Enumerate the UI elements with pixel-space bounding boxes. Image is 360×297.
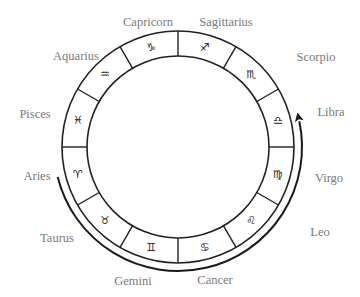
- label-scorpio: Scorpio: [297, 50, 336, 64]
- virgo-symbol-icon: ♍︎: [273, 168, 283, 181]
- label-libra: Libra: [317, 105, 345, 119]
- arrowhead-icon: [295, 112, 304, 122]
- label-virgo: Virgo: [315, 171, 343, 185]
- label-sagittarius: Sagittarius: [199, 15, 253, 29]
- sector-divider: [120, 47, 133, 69]
- sign-glyphs: ♑︎♐︎♏︎♎︎♍︎♌︎♋︎♊︎♉︎♈︎♓︎♒︎: [73, 41, 283, 254]
- label-cancer: Cancer: [197, 273, 233, 287]
- zodiac-wheel-diagram: ♑︎♐︎♏︎♎︎♍︎♌︎♋︎♊︎♉︎♈︎♓︎♒︎ CapricornSagitt…: [0, 0, 360, 297]
- label-capricorn: Capricorn: [123, 15, 174, 29]
- sector-divider: [257, 89, 279, 102]
- sector-divider: [78, 89, 100, 102]
- label-pisces: Pisces: [19, 107, 50, 121]
- label-aries: Aries: [23, 169, 50, 183]
- inner-ring: [87, 56, 269, 238]
- aries-symbol-icon: ♈︎: [73, 168, 83, 181]
- outer-ring: [62, 31, 294, 263]
- sector-divider: [224, 47, 237, 69]
- sector-divider: [120, 226, 133, 248]
- sector-divider: [78, 193, 100, 206]
- scorpio-symbol-icon: ♏︎: [246, 68, 256, 81]
- ring-dividers: [62, 31, 294, 263]
- sagittarius-symbol-icon: ♐︎: [200, 41, 210, 54]
- sector-divider: [257, 193, 279, 206]
- label-gemini: Gemini: [114, 274, 152, 288]
- gemini-symbol-icon: ♊︎: [146, 241, 156, 254]
- pisces-symbol-icon: ♓︎: [73, 114, 83, 127]
- label-taurus: Taurus: [40, 231, 74, 245]
- capricorn-symbol-icon: ♑︎: [146, 41, 156, 54]
- label-leo: Leo: [310, 225, 329, 239]
- cancer-symbol-icon: ♋︎: [200, 241, 210, 254]
- libra-symbol-icon: ♎︎: [273, 114, 283, 127]
- zodiac-ring: [62, 31, 294, 263]
- sector-divider: [224, 226, 237, 248]
- leo-symbol-icon: ♌︎: [246, 214, 256, 227]
- taurus-symbol-icon: ♉︎: [100, 214, 110, 227]
- motion-arrow: [58, 112, 304, 271]
- aquarius-symbol-icon: ♒︎: [100, 68, 110, 81]
- label-aquarius: Aquarius: [53, 49, 99, 63]
